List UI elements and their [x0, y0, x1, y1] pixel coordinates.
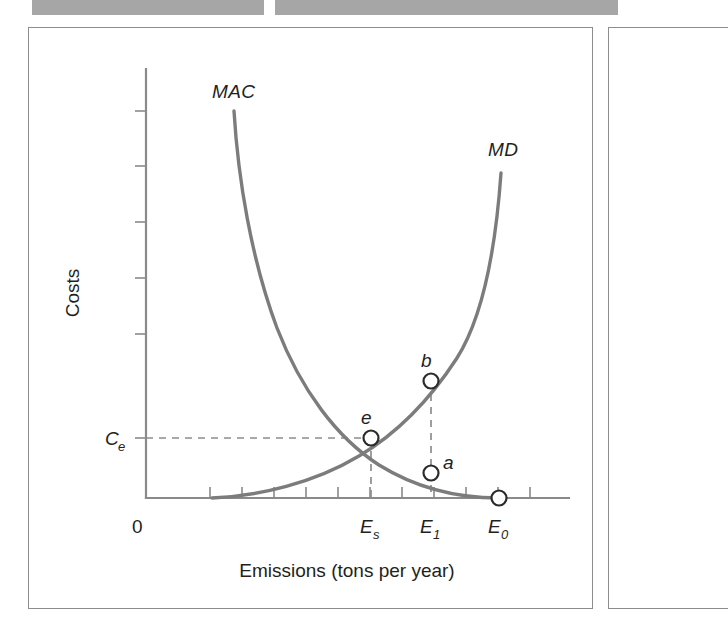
e1-axis-label: E 1: [420, 516, 440, 542]
svg-text:E: E: [420, 516, 433, 537]
x-axis-title: Emissions (tons per year): [239, 560, 454, 581]
svg-text:s: s: [373, 527, 380, 542]
figure-panel: MAC MD e b a C e 0 E s E 1 E: [28, 27, 593, 609]
point-e-label: e: [361, 407, 372, 428]
y-axis-ticks: [135, 111, 146, 438]
emissions-cost-chart: MAC MD e b a C e 0 E s E 1 E: [29, 28, 594, 610]
es-axis-label: E s: [360, 516, 380, 542]
e0-axis-label: E 0: [488, 516, 509, 542]
svg-text:1: 1: [433, 527, 440, 542]
svg-text:E: E: [488, 516, 501, 537]
point-a-marker: [424, 466, 439, 481]
point-e-marker: [364, 431, 379, 446]
svg-text:E: E: [360, 516, 373, 537]
ce-axis-label: C e: [105, 428, 125, 454]
mac-curve-label: MAC: [212, 81, 255, 102]
origin-label: 0: [132, 516, 143, 537]
redacted-bar-left: [32, 0, 264, 15]
svg-text:0: 0: [501, 527, 509, 542]
y-axis-title: Costs: [62, 269, 83, 318]
point-b-label: b: [421, 350, 432, 371]
point-a-label: a: [443, 452, 454, 473]
adjacent-figure-panel: [608, 27, 728, 609]
point-e0-marker: [492, 491, 507, 506]
svg-text:C: C: [105, 428, 119, 449]
svg-text:e: e: [118, 439, 125, 454]
point-b-marker: [424, 374, 439, 389]
redacted-bar-right: [275, 0, 618, 15]
md-curve-label: MD: [488, 139, 518, 160]
